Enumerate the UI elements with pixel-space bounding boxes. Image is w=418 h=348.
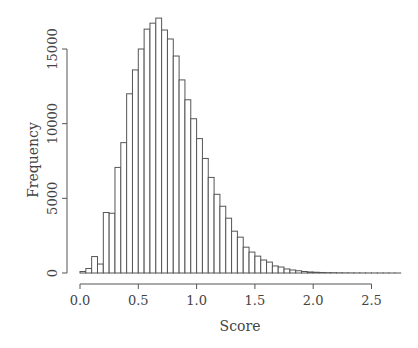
histogram-bar xyxy=(226,218,232,273)
histogram-bars xyxy=(80,18,401,273)
histogram-bar xyxy=(144,29,150,273)
x-tick-label: 0.0 xyxy=(70,293,91,308)
histogram-bar xyxy=(237,237,243,273)
histogram-bar xyxy=(197,139,203,273)
histogram-bar xyxy=(261,260,267,273)
x-tick-label: 0.5 xyxy=(128,293,149,308)
histogram-bar xyxy=(121,143,127,273)
histogram-bar xyxy=(167,39,173,273)
histogram-bar xyxy=(208,177,214,273)
histogram-bar xyxy=(80,272,86,273)
histogram-bar xyxy=(319,272,325,273)
histogram-bar xyxy=(109,213,115,273)
histogram-chart: 050001000015000 0.00.51.01.52.02.5 Score… xyxy=(0,0,418,348)
histogram-bar xyxy=(232,231,238,273)
histogram-bar xyxy=(220,206,226,273)
histogram-bar xyxy=(272,266,278,273)
histogram-bar xyxy=(103,213,109,273)
y-tick-label: 0 xyxy=(45,269,60,277)
histogram-bar xyxy=(127,94,133,273)
histogram-bar xyxy=(191,119,197,273)
histogram-bar xyxy=(185,100,191,273)
histogram-bar xyxy=(138,49,144,273)
histogram-bar xyxy=(202,158,208,273)
histogram-bar xyxy=(162,30,168,273)
histogram-bar xyxy=(150,23,156,273)
y-axis-label: Frequency xyxy=(25,122,41,198)
histogram-bar xyxy=(243,247,249,273)
histogram-bar xyxy=(255,256,261,273)
x-tick-label: 2.0 xyxy=(303,293,324,308)
histogram-bar xyxy=(173,56,179,273)
histogram-bar xyxy=(284,269,290,273)
x-tick-label: 1.5 xyxy=(245,293,266,308)
histogram-bar xyxy=(132,70,138,273)
histogram-bar xyxy=(179,80,185,273)
histogram-bar xyxy=(302,272,308,273)
histogram-bar xyxy=(296,271,302,273)
histogram-bar xyxy=(249,252,255,273)
histogram-bar xyxy=(307,272,313,273)
histogram-bar xyxy=(214,194,220,273)
y-tick-label: 5000 xyxy=(45,182,60,215)
x-tick-label: 1.0 xyxy=(186,293,207,308)
histogram-bar xyxy=(313,272,319,273)
histogram-bar xyxy=(156,18,162,273)
histogram-bar xyxy=(115,167,121,273)
x-tick-label: 2.5 xyxy=(361,293,382,308)
histogram-bar xyxy=(97,264,103,273)
histogram-bar xyxy=(278,267,284,273)
y-axis: 050001000015000 xyxy=(45,28,67,277)
y-tick-label: 10000 xyxy=(45,103,60,144)
x-axis: 0.00.51.01.52.02.5 xyxy=(70,284,382,308)
histogram-bar xyxy=(290,270,296,273)
histogram-bar xyxy=(86,269,92,273)
x-axis-label: Score xyxy=(220,318,261,334)
y-tick-label: 15000 xyxy=(45,28,60,69)
histogram-bar xyxy=(92,257,98,273)
histogram-bar xyxy=(267,262,273,273)
